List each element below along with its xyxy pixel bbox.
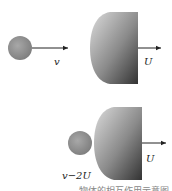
ball-bottom (68, 131, 92, 155)
ball-top (8, 36, 32, 60)
body-bottom (94, 107, 142, 180)
body-velocity-label-bottom: U (146, 153, 155, 164)
top-scene: v U (8, 12, 161, 84)
body-velocity-label-top: U (144, 56, 153, 67)
ball-velocity-label-top: v (54, 56, 60, 67)
body-top (90, 12, 138, 84)
bottom-scene: U v−2U (62, 107, 166, 181)
collision-diagram: v U U v−2U …物体的相互作用示意图 (0, 0, 172, 191)
figure-caption: …物体的相互作用示意图 (70, 185, 169, 191)
ball-velocity-label-bottom: v−2U (62, 170, 91, 181)
